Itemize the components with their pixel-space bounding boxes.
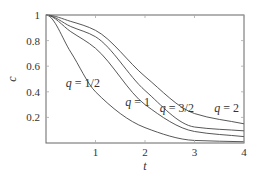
- curve-label-3: q = 2: [214, 101, 239, 115]
- y-tick-label: 0.6: [26, 60, 40, 72]
- y-axis-label: c: [5, 76, 19, 82]
- curve-label-0: q = 1/2: [66, 76, 100, 90]
- y-tick-label: 0.8: [26, 35, 40, 47]
- y-tick-label: 1: [35, 9, 41, 21]
- x-axis-label: t: [143, 159, 147, 173]
- curve-label-2: q = 3/2: [160, 101, 194, 115]
- x-tick-label: 1: [93, 146, 99, 158]
- x-tick-label: 2: [142, 146, 148, 158]
- y-tick-label: 0.2: [26, 111, 40, 123]
- x-tick-label: 3: [192, 146, 198, 158]
- curve-label-1: q = 1: [125, 95, 150, 109]
- labels-group: 12340.20.40.60.81tcq = 1/2q = 1q = 3/2q …: [5, 9, 247, 173]
- x-tick-label: 4: [241, 146, 247, 158]
- line-chart: 12340.20.40.60.81tcq = 1/2q = 1q = 3/2q …: [0, 0, 260, 180]
- y-tick-label: 0.4: [26, 86, 40, 98]
